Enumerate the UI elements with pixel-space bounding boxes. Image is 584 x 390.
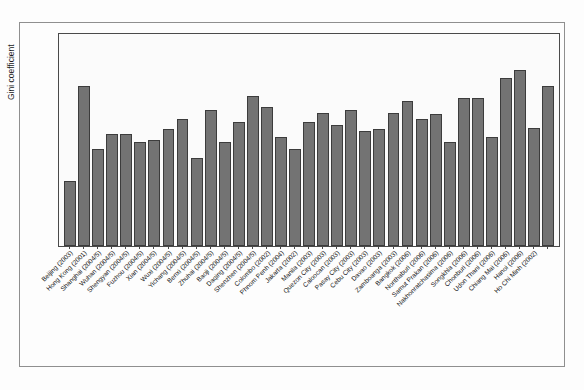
y-axis-tick-mark [58,155,59,156]
y-axis-tick-mark [58,185,59,186]
bar [402,101,414,246]
bar [416,119,428,246]
bar [303,122,315,246]
bar [261,107,273,246]
bar [388,113,400,246]
y-axis-tick-mark [58,215,59,216]
x-axis-tick-mark [547,246,548,249]
bar [542,86,554,247]
chart-figure: Gini coefficient 0.10.20.30.40.50.60.7 B… [0,0,584,390]
bar [191,158,203,246]
bar [120,134,132,246]
bar [500,78,512,246]
y-axis-tick-mark [58,124,59,125]
bar [317,113,329,246]
bar [219,142,231,246]
bar-series [59,34,559,246]
bar [472,98,484,246]
y-axis-tick-mark [58,34,59,35]
bar [92,149,104,246]
bar [430,114,442,246]
bar [64,181,76,246]
bar [458,98,470,246]
bar [177,119,189,246]
bar [345,110,357,246]
plot-area: 0.10.20.30.40.50.60.7 [58,33,560,247]
bar [106,134,118,246]
bar [289,149,301,246]
bar [514,70,526,246]
y-axis-tick-mark [58,94,59,95]
bar [275,137,287,246]
bar [444,142,456,246]
x-axis-labels: Beijing (2003)Hong Kong (2001)Shanghai (… [58,249,560,369]
bar [486,137,498,246]
bar [528,128,540,246]
bar [373,129,385,246]
bar [148,140,160,246]
y-axis-title: Gini coefficient [6,44,16,100]
bar [331,125,343,246]
bar [163,129,175,247]
y-axis-tick-mark [58,64,59,65]
bar [78,86,90,247]
bar [205,110,217,246]
bar [233,122,245,246]
bar [359,131,371,246]
bar [247,96,259,246]
bar [134,142,146,246]
